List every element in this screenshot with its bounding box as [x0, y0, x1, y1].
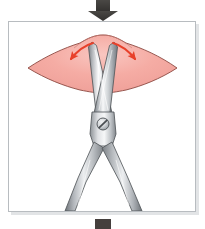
scissors-pivot-screw [97, 118, 109, 130]
illustration-canvas [0, 0, 205, 229]
bottom-force-arrow-stub [95, 219, 111, 229]
force-arrow-shaft [96, 0, 110, 12]
figure-container: Blunt dissection with surgical scissors … [0, 0, 205, 229]
